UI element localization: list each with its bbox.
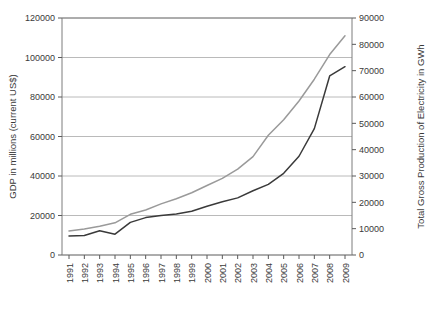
left-tick-label: 20000: [30, 211, 55, 221]
right-tick-label: 60000: [359, 92, 384, 102]
left-tick-label: 40000: [30, 171, 55, 181]
x-tick-label: 2007: [310, 263, 320, 283]
x-tick-label: 2005: [279, 263, 289, 283]
left-tick-label: 120000: [25, 13, 55, 23]
x-tick-label: 1996: [141, 263, 151, 283]
series-line-1: [69, 36, 345, 231]
x-tick-label: 2000: [203, 263, 213, 283]
left-tick-label: 60000: [30, 132, 55, 142]
right-tick-label: 70000: [359, 66, 384, 76]
x-tick-label: 2001: [218, 263, 228, 283]
left-axis-title: GDP in millions (current US$): [7, 74, 18, 198]
chart-container: 020000400006000080000100000120000 010000…: [0, 0, 440, 327]
right-tick-label: 90000: [359, 13, 384, 23]
gridlines-group: [62, 18, 352, 255]
x-tick-label: 1998: [172, 263, 182, 283]
right-tick-label: 30000: [359, 171, 384, 181]
x-tick-label: 1999: [187, 263, 197, 283]
x-tick-label: 1994: [111, 263, 121, 283]
left-tick-label: 0: [50, 250, 55, 260]
right-axis-title: Total Gross Production of Electricity in…: [415, 44, 426, 228]
right-tick-label: 40000: [359, 145, 384, 155]
left-axis-ticks: 020000400006000080000100000120000: [25, 13, 62, 260]
dual-axis-line-chart: 020000400006000080000100000120000 010000…: [0, 0, 440, 327]
series-lines-group: [69, 36, 345, 236]
left-tick-label: 100000: [25, 53, 55, 63]
x-tick-label: 1997: [157, 263, 167, 283]
x-tick-label: 2008: [325, 263, 335, 283]
x-tick-label: 2002: [233, 263, 243, 283]
right-tick-label: 80000: [359, 40, 384, 50]
right-tick-label: 10000: [359, 224, 384, 234]
right-tick-label: 20000: [359, 198, 384, 208]
x-axis-ticks: 1991199219931994199519961997199819992000…: [65, 255, 351, 283]
x-tick-label: 2009: [341, 263, 351, 283]
x-tick-label: 1991: [65, 263, 75, 283]
right-axis-ticks: 0100002000030000400005000060000700008000…: [352, 13, 384, 260]
series-line-2: [69, 67, 345, 236]
x-tick-label: 1992: [80, 263, 90, 283]
x-tick-label: 2006: [295, 263, 305, 283]
x-tick-label: 1995: [126, 263, 136, 283]
left-tick-label: 80000: [30, 92, 55, 102]
right-tick-label: 0: [359, 250, 364, 260]
x-tick-label: 2004: [264, 263, 274, 283]
x-tick-label: 2003: [249, 263, 259, 283]
right-tick-label: 50000: [359, 119, 384, 129]
x-tick-label: 1993: [95, 263, 105, 283]
